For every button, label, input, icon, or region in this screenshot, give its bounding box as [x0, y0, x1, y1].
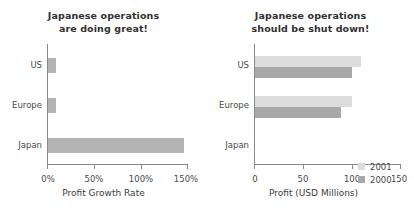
- bar-right-us-2001: [255, 56, 361, 67]
- legend-swatch-2000-icon: [358, 176, 365, 183]
- y-category-label-right-japan: Japan: [225, 140, 249, 150]
- x-axis-left: [47, 164, 188, 165]
- x-ticklabel-right-150: 150: [391, 174, 407, 184]
- x-ticklabel-left-150: 150%: [174, 174, 198, 184]
- chart-panel-profit-usd-millions: Japanese operations should be shut down!…: [207, 0, 414, 214]
- bar-right-us-2000: [255, 67, 352, 78]
- chart-title-left: Japanese operations are doing great!: [0, 9, 207, 35]
- bar-left-europe: [48, 98, 56, 113]
- bar-left-us: [48, 58, 56, 73]
- legend-swatch-2001-icon: [358, 163, 365, 170]
- y-category-label-right-us: US: [237, 60, 249, 70]
- chart-panel-profit-growth-rate: Japanese operations are doing great! 0% …: [0, 0, 207, 214]
- x-ticklabel-right-0: 0: [252, 174, 257, 184]
- chart-title-left-line-1: Japanese operations: [0, 9, 207, 22]
- legend-label-2001: 2001: [370, 162, 392, 172]
- legend-item-2000: 2000: [358, 174, 392, 185]
- x-ticklabel-right-50: 50: [298, 174, 309, 184]
- plot-area-left: 0% 50% 100% 150% US Europe Japan: [47, 44, 188, 165]
- x-ticklabel-left-0: 0%: [41, 174, 55, 184]
- x-tick-right-150: [400, 165, 401, 169]
- x-tick-right-0: [254, 165, 255, 169]
- x-tick-left-150: [187, 165, 188, 169]
- y-category-label-left-europe: Europe: [12, 100, 42, 110]
- chart-title-right: Japanese operations should be shut down!: [207, 9, 414, 35]
- bar-right-europe-2000: [255, 107, 341, 118]
- y-category-label-right-europe: Europe: [219, 100, 249, 110]
- x-tick-right-100: [352, 165, 353, 169]
- bar-left-japan: [48, 138, 184, 153]
- legend-label-2000: 2000: [370, 175, 392, 185]
- chart-page: Japanese operations are doing great! 0% …: [0, 0, 414, 214]
- chart-title-right-line-1: Japanese operations: [207, 9, 414, 22]
- legend-item-2001: 2001: [358, 161, 392, 172]
- chart-title-left-line-2: are doing great!: [0, 22, 207, 35]
- plot-area-right: 0 50 100 150 US Europe Japan 2001: [254, 44, 401, 165]
- legend-right: 2001 2000: [358, 161, 392, 187]
- chart-title-right-line-2: should be shut down!: [207, 22, 414, 35]
- x-tick-left-50: [94, 165, 95, 169]
- x-ticklabel-left-100: 100%: [129, 174, 153, 184]
- x-axis-caption-right: Profit (USD Millions): [207, 188, 414, 198]
- bar-right-europe-2001: [255, 96, 352, 107]
- x-tick-right-50: [303, 165, 304, 169]
- x-tick-left-0: [47, 165, 48, 169]
- x-axis-caption-left: Profit Growth Rate: [0, 188, 207, 198]
- x-tick-left-100: [141, 165, 142, 169]
- y-category-label-left-us: US: [30, 60, 42, 70]
- x-ticklabel-left-50: 50%: [85, 174, 104, 184]
- y-category-label-left-japan: Japan: [18, 140, 42, 150]
